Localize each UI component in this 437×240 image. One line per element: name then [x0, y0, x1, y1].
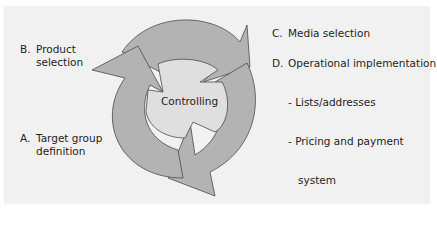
step-c-label: C.Media selection	[272, 27, 370, 40]
center-label: Controlling	[161, 95, 218, 107]
step-c-line1: Media selection	[288, 27, 370, 39]
subitem: system	[288, 174, 437, 187]
subitem: - Pricing and payment	[288, 135, 437, 148]
step-a-line1: Target group	[36, 132, 102, 144]
step-b-label: B.Product selection	[20, 43, 83, 69]
step-d-label: D.Operational implementation - Lists/add…	[272, 57, 436, 211]
step-d-subitems: - Lists/addresses - Pricing and payment …	[288, 70, 437, 211]
step-d-letter: D.	[272, 57, 288, 70]
step-c-letter: C.	[272, 27, 288, 40]
step-b-letter: B.	[20, 43, 36, 56]
step-b-line1: Product	[36, 43, 76, 55]
subitem: - Lists/addresses	[288, 96, 437, 109]
step-a-label: A.Target group definition	[20, 132, 102, 158]
step-b-line2: selection	[20, 56, 83, 68]
step-a-line2: definition	[20, 145, 85, 157]
step-d-line1: Operational implementation	[288, 57, 436, 69]
step-a-letter: A.	[20, 132, 36, 145]
